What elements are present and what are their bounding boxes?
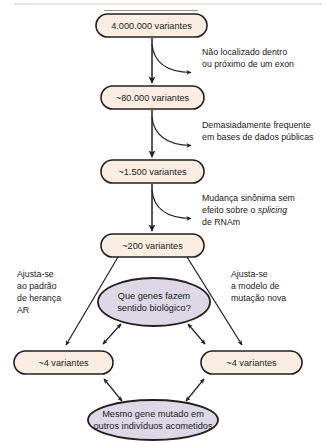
side-label-recessive-model-line1: Ajusta-se <box>17 269 54 279</box>
node-same-gene-conclusion[interactable]: Mesmo gene mutado em outros indivíduos a… <box>88 400 218 440</box>
side-label-recessive-model-line3: de herança <box>17 293 61 303</box>
annotation-filter-synonymous: Mudança sinônima sem efeito sobre o spli… <box>202 193 295 227</box>
annotation-filter-frequency-line1: Demasiadamente frequente <box>202 120 311 130</box>
connector-rare-to-functional <box>152 184 191 231</box>
side-label-recessive-model-line4: AR <box>17 305 29 315</box>
connector-total-to-exonic <box>152 38 191 83</box>
side-label-denovo-model-line1: Ajusta-se <box>231 269 268 279</box>
annotation-filter-frequency: Demasiadamente frequente em bases de dad… <box>202 120 314 142</box>
annotation-filter-location-line2: ou próximo de um exon <box>202 59 294 69</box>
flowchart-diagram: 4.000.000 variantes ~80.000 variantes ~1… <box>0 0 333 445</box>
node-exonic-variants-label: ~80.000 variantes <box>116 93 190 103</box>
connector-recessive-conclusion <box>104 379 122 401</box>
node-total-variants[interactable]: 4.000.000 variantes <box>96 14 207 37</box>
node-total-variants-label: 4.000.000 variantes <box>111 21 192 31</box>
node-rare-variants[interactable]: ~1.500 variantes <box>101 160 204 183</box>
node-exonic-variants[interactable]: ~80.000 variantes <box>101 86 204 109</box>
node-recessive-variants-label: ~4 variantes <box>38 358 89 368</box>
node-recessive-variants[interactable]: ~4 variantes <box>14 351 113 374</box>
connector-denovo-question <box>188 324 205 344</box>
annotation-filter-synonymous-line2: efeito sobre o splicing <box>202 205 287 215</box>
node-denovo-variants-label: ~4 variantes <box>226 358 277 368</box>
node-biological-question[interactable]: Que genes fazem sentido biológico? <box>98 278 210 326</box>
side-label-denovo-model-line2: a modelo de <box>231 281 280 291</box>
node-rare-variants-label: ~1.500 variantes <box>118 167 187 177</box>
node-functional-variants[interactable]: ~200 variantes <box>101 234 204 257</box>
annotation-filter-synonymous-line1: Mudança sinônima sem <box>202 193 295 203</box>
node-same-gene-conclusion-line2: outros indivíduos acometidos <box>94 421 213 431</box>
connector-exonic-to-rare <box>152 110 191 157</box>
node-biological-question-line2: sentido biológico? <box>117 303 191 313</box>
side-label-denovo-model: Ajusta-se a modelo de mutação nova <box>231 269 286 303</box>
annotation-filter-synonymous-line2-pre: efeito sobre o <box>202 205 258 215</box>
annotation-filter-synonymous-splicing-term: splicing <box>258 205 287 215</box>
side-label-recessive-model-line2: ao padrão <box>17 281 57 291</box>
node-denovo-variants[interactable]: ~4 variantes <box>201 351 302 374</box>
side-label-denovo-model-line3: mutação nova <box>231 293 286 303</box>
annotation-filter-location-line1: Não localizado dentro <box>202 47 287 57</box>
connector-denovo-conclusion <box>186 379 204 401</box>
annotation-filter-location: Não localizado dentro ou próximo de um e… <box>202 47 294 69</box>
node-functional-variants-label: ~200 variantes <box>122 241 183 251</box>
node-same-gene-conclusion-line1: Mesmo gene mutado em <box>102 409 204 419</box>
node-biological-question-line1: Que genes fazem <box>118 291 191 301</box>
annotation-filter-synonymous-line3: de RNAm <box>202 217 240 227</box>
annotation-filter-frequency-line2: em bases de dados públicas <box>202 132 314 142</box>
connector-recessive-question <box>103 324 121 344</box>
side-label-recessive-model: Ajusta-se ao padrão de herança AR <box>17 269 61 315</box>
